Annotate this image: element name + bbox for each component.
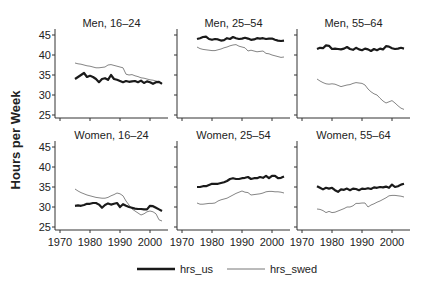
x-tick-label: 1990 (350, 236, 374, 248)
series-line-hrs-us (317, 45, 404, 51)
y-tick-label: 30 (39, 89, 51, 101)
x-tick-label: 1990 (108, 236, 132, 248)
series-line-hrs-swed (197, 45, 284, 58)
panel-title: Men, 25–54 (204, 17, 262, 29)
legend-label-hrs-swed: hrs_swed (270, 263, 317, 275)
y-tick-label: 25 (39, 221, 51, 233)
y-tick-label: 45 (39, 141, 51, 153)
x-tick-label: 1980 (200, 236, 224, 248)
panel: Men, 25–54 (174, 17, 290, 121)
y-axis-label: Hours per Week (8, 90, 23, 190)
panel: Women, 16–2425303540451970198019902000 (39, 129, 168, 248)
y-tick-label: 25 (39, 109, 51, 121)
x-tick-label: 1970 (170, 236, 194, 248)
x-tick-label: 1980 (78, 236, 102, 248)
panel: Men, 16–242530354045 (39, 17, 168, 121)
x-tick-label: 2000 (260, 236, 284, 248)
series-line-hrs-us (317, 184, 404, 192)
series-line-hrs-swed (317, 195, 404, 212)
panel: Women, 55–641970198019902000 (290, 129, 410, 248)
panel: Women, 25–541970198019902000 (170, 129, 290, 248)
panel: Men, 55–64 (294, 17, 410, 121)
x-tick-label: 1970 (48, 236, 72, 248)
x-tick-label: 1990 (230, 236, 254, 248)
series-line-hrs-swed (197, 191, 284, 204)
y-tick-label: 40 (39, 49, 51, 61)
legend: hrs_us hrs_swed (137, 263, 317, 275)
x-tick-label: 1980 (320, 236, 344, 248)
chart: Men, 16–242530354045Men, 25–54Men, 55–64… (0, 0, 423, 287)
panel-title: Women, 16–24 (74, 129, 148, 141)
series-line-hrs-us (75, 73, 162, 84)
series-line-hrs-us (197, 176, 284, 187)
series-line-hrs-swed (317, 79, 404, 109)
x-tick-label: 1970 (290, 236, 314, 248)
panel-title: Men, 55–64 (324, 17, 382, 29)
y-tick-label: 35 (39, 69, 51, 81)
y-tick-label: 40 (39, 161, 51, 173)
y-tick-label: 30 (39, 201, 51, 213)
panels: Men, 16–242530354045Men, 25–54Men, 55–64… (39, 17, 410, 248)
x-tick-label: 2000 (380, 236, 404, 248)
panel-title: Women, 25–54 (196, 129, 270, 141)
y-tick-label: 35 (39, 181, 51, 193)
panel-title: Women, 55–64 (316, 129, 390, 141)
legend-label-hrs-us: hrs_us (180, 263, 214, 275)
series-line-hrs-us (75, 203, 162, 211)
panel-title: Men, 16–24 (82, 17, 140, 29)
y-tick-label: 45 (39, 29, 51, 41)
series-line-hrs-us (197, 37, 284, 41)
x-tick-label: 2000 (138, 236, 162, 248)
